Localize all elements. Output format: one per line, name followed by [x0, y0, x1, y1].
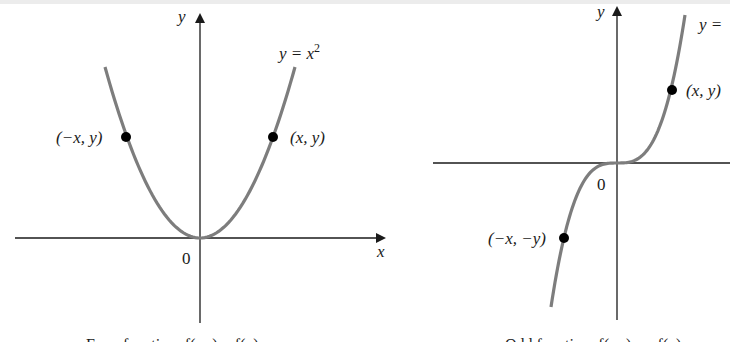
origin-label: 0	[182, 249, 191, 268]
point-neg-x	[121, 132, 131, 142]
function-label-exponent: 2	[314, 41, 320, 55]
origin-label: 0	[597, 175, 606, 194]
y-axis-label: y	[176, 7, 186, 26]
odd-caption: Odd function: f(−x) = −f(x)	[505, 336, 681, 342]
point-pos-x	[667, 85, 677, 95]
figure-canvas: y x 0 y = x2 (−x, y) (x, y) Even functio…	[0, 0, 730, 342]
odd-function-graph: y 0 y = (x, y) (−x, −y) Odd function: f(…	[433, 2, 730, 342]
even-function-graph: y x 0 y = x2 (−x, y) (x, y) Even functio…	[15, 7, 385, 342]
point-pos-x	[268, 132, 278, 142]
point-neg-x-label: (−x, −y)	[488, 229, 546, 248]
point-pos-x-label: (x, y)	[686, 81, 721, 100]
y-axis-label: y	[595, 2, 605, 21]
point-neg-x-label: (−x, y)	[56, 128, 103, 147]
function-label: y = x2	[277, 41, 320, 63]
function-label: y =	[697, 15, 722, 34]
point-pos-x-label: (x, y)	[290, 128, 325, 147]
function-label-base: y = x	[277, 44, 315, 63]
cubic-curve	[551, 15, 685, 307]
point-neg-x	[559, 233, 569, 243]
x-axis-label: x	[376, 242, 385, 261]
scan-edge	[0, 0, 730, 4]
even-caption: Even function: f(−x) = f(x)	[86, 336, 259, 342]
